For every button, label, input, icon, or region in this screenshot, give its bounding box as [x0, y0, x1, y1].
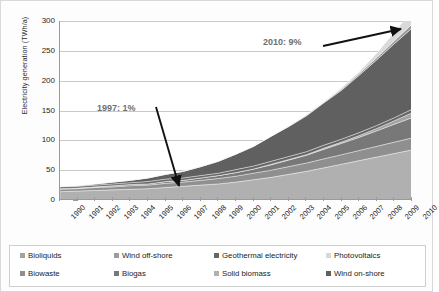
- legend-swatch-icon: [326, 253, 331, 258]
- legend-item[interactable]: Photovoltaics: [326, 251, 380, 260]
- legend-row-2: BiowasteBiogasSolid biomassWind on-shore: [10, 267, 425, 284]
- x-tick-mark: [94, 197, 95, 201]
- x-tick-label: 1993: [122, 203, 140, 221]
- x-tick-mark: [235, 197, 236, 201]
- x-tick-label: 2006: [350, 203, 368, 221]
- x-tick-label: 2000: [245, 203, 263, 221]
- legend-swatch-icon: [114, 253, 119, 258]
- x-tick-mark: [253, 197, 254, 201]
- x-tick-mark: [376, 197, 377, 201]
- legend-swatch-icon: [20, 271, 25, 276]
- x-tick-label: 2010: [421, 203, 439, 221]
- legend-item[interactable]: Biowaste: [20, 269, 60, 278]
- x-tick-mark: [393, 197, 394, 201]
- x-tick-label: 2009: [403, 203, 421, 221]
- y-tick-label: 300: [25, 17, 55, 25]
- legend-row-1: BioliquidsWind off-shoreGeothermal elect…: [10, 249, 425, 266]
- legend-swatch-icon: [114, 271, 119, 276]
- x-tick-label: 1994: [139, 203, 157, 221]
- annotation-1997: 1997: 1%: [97, 103, 136, 113]
- x-tick-label: 1990: [69, 203, 87, 221]
- legend-swatch-icon: [214, 253, 219, 258]
- x-tick-mark: [77, 197, 78, 201]
- legend-item[interactable]: Solid biomass: [214, 269, 271, 278]
- x-tick-mark: [288, 197, 289, 201]
- x-tick-mark: [112, 197, 113, 201]
- x-axis-tick-labels: 1990199119921993199419951996199719981999…: [59, 201, 415, 241]
- x-tick-mark: [358, 197, 359, 201]
- legend-swatch-icon: [214, 271, 219, 276]
- x-tick-label: 1996: [174, 203, 192, 221]
- y-tick-label: 200: [25, 77, 55, 85]
- x-tick-mark: [411, 197, 412, 201]
- x-tick-label: 2005: [333, 203, 351, 221]
- x-tick-mark: [147, 197, 148, 201]
- x-tick-mark: [129, 197, 130, 201]
- legend-label: Biowaste: [28, 269, 60, 278]
- legend-label: Wind on-shore: [334, 269, 385, 278]
- x-tick-label: 1998: [210, 203, 228, 221]
- y-tick-label: 250: [25, 47, 55, 55]
- legend-swatch-icon: [326, 271, 331, 276]
- x-tick-mark: [59, 197, 60, 201]
- y-tick-label: 100: [25, 136, 55, 144]
- x-tick-label: 2001: [262, 203, 280, 221]
- x-tick-label: 1992: [104, 203, 122, 221]
- legend-label: Biogas: [122, 269, 146, 278]
- x-tick-label: 2002: [280, 203, 298, 221]
- x-tick-label: 1991: [86, 203, 104, 221]
- legend-item[interactable]: Wind off-shore: [114, 251, 173, 260]
- y-axis-tick-labels: 050100150200250300: [21, 1, 55, 221]
- annotation-2010: 2010: 9%: [263, 37, 302, 47]
- chart-legend: BioliquidsWind off-shoreGeothermal elect…: [9, 245, 426, 287]
- x-tick-label: 1999: [227, 203, 245, 221]
- x-tick-label: 1995: [157, 203, 175, 221]
- legend-item[interactable]: Biogas: [114, 269, 146, 278]
- legend-label: Solid biomass: [222, 269, 271, 278]
- legend-item[interactable]: Geothermal electricity: [214, 251, 297, 260]
- x-tick-mark: [182, 197, 183, 201]
- legend-label: Wind off-shore: [122, 251, 173, 260]
- legend-swatch-icon: [20, 253, 25, 258]
- x-tick-mark: [341, 197, 342, 201]
- legend-label: Bioliquids: [28, 251, 61, 260]
- x-tick-mark: [200, 197, 201, 201]
- x-tick-mark: [217, 197, 218, 201]
- y-tick-label: 0: [25, 196, 55, 204]
- x-tick-label: 2003: [298, 203, 316, 221]
- x-tick-label: 2004: [315, 203, 333, 221]
- x-tick-mark: [165, 197, 166, 201]
- legend-label: Geothermal electricity: [222, 251, 297, 260]
- legend-item[interactable]: Wind on-shore: [326, 269, 385, 278]
- x-tick-mark: [270, 197, 271, 201]
- x-tick-label: 2007: [368, 203, 386, 221]
- y-tick-label: 150: [25, 107, 55, 115]
- legend-label: Photovoltaics: [334, 251, 380, 260]
- legend-item[interactable]: Bioliquids: [20, 251, 61, 260]
- x-tick-mark: [305, 197, 306, 201]
- y-tick-label: 50: [25, 166, 55, 174]
- x-tick-label: 2008: [386, 203, 404, 221]
- x-tick-mark: [323, 197, 324, 201]
- x-tick-label: 1997: [192, 203, 210, 221]
